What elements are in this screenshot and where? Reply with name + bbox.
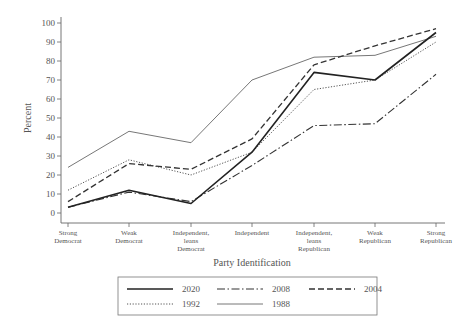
legend-label-1988: 1988 [272, 299, 291, 309]
series-lines [68, 29, 436, 208]
legend-label-2008: 2008 [272, 284, 291, 294]
x-tick-label: StrongRepublican [420, 229, 452, 245]
y-tick-label: 50 [46, 113, 56, 123]
series-line-1988 [68, 36, 436, 167]
y-tick-label: 60 [46, 94, 56, 104]
y-axis: 0102030405060708090100 [42, 17, 62, 223]
y-tick-label: 10 [46, 189, 56, 199]
x-tick-label: StrongDemocrat [54, 229, 82, 245]
x-tick-label: Independent,leansRepublican [296, 229, 333, 253]
y-tick-label: 0 [51, 208, 56, 218]
line-chart: 0102030405060708090100 StrongDemocratWea… [0, 0, 475, 329]
series-line-2004 [68, 29, 436, 202]
y-tick-label: 30 [46, 151, 56, 161]
series-line-2008 [68, 74, 436, 207]
legend-label-2004: 2004 [364, 284, 383, 294]
y-tick-label: 100 [42, 18, 56, 28]
y-axis-title: Percent [22, 103, 33, 133]
y-tick-label: 20 [46, 170, 56, 180]
series-line-2020 [68, 33, 436, 208]
x-axis: StrongDemocratWeakDemocratIndependent,le… [54, 223, 452, 253]
y-tick-label: 40 [46, 132, 56, 142]
x-tick-label: WeakRepublican [359, 229, 391, 245]
legend-label-1992: 1992 [182, 299, 200, 309]
x-tick-label: WeakDemocrat [115, 229, 143, 245]
y-tick-label: 90 [46, 37, 56, 47]
legend-box [118, 277, 377, 315]
legend: 20202008200419921988 [118, 277, 383, 315]
legend-label-2020: 2020 [182, 284, 201, 294]
x-tick-label: Independent [235, 229, 270, 237]
x-tick-label: Independent,leansDemocrat [173, 229, 210, 253]
y-tick-label: 80 [46, 56, 56, 66]
x-axis-title: Party Identification [213, 257, 290, 268]
y-tick-label: 70 [46, 75, 56, 85]
